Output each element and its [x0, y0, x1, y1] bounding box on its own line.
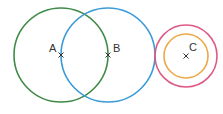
point-c-cross-icon	[184, 54, 189, 59]
point-b-label: B	[113, 42, 120, 54]
circles-diagram: A B C	[0, 0, 223, 114]
point-a-label: A	[49, 42, 57, 54]
point-c-label: C	[189, 41, 197, 53]
